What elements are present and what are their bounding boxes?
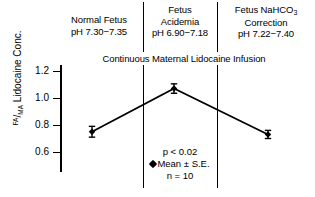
- infusion-span-line: [62, 58, 306, 59]
- p-value-label: p < 0.02: [145, 146, 215, 158]
- sample-size-label: n = 10: [145, 170, 215, 182]
- data-point-marker: [265, 131, 272, 138]
- arrow-left-icon: [58, 54, 65, 62]
- data-point-marker: [89, 128, 96, 135]
- chart-figure: Normal Fetus pH 7.30−7.35 Fetus Acidemia…: [0, 0, 315, 197]
- legend-entry: Mean ± S.E.: [145, 158, 215, 170]
- arrow-right-icon: [303, 54, 310, 62]
- series-line: [92, 89, 268, 135]
- legend-label: Mean ± S.E.: [157, 158, 209, 169]
- data-point-marker: [171, 85, 178, 92]
- data-series-mean-se: [89, 84, 272, 139]
- statistics-annotation: p < 0.02 Mean ± S.E. n = 10: [145, 146, 215, 182]
